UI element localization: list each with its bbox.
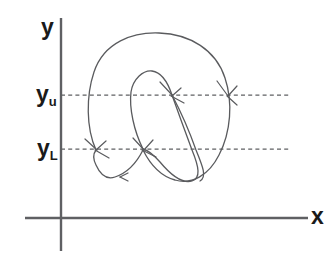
outer-trajectory-loop bbox=[88, 33, 230, 181]
phase-plane-figure: y x yu yL bbox=[0, 0, 335, 265]
x-axis-label-text: x bbox=[311, 203, 324, 229]
lower-threshold-label-main: y bbox=[37, 135, 50, 161]
trajectory-curves-group bbox=[88, 33, 230, 182]
upper-threshold-label-sub: u bbox=[49, 94, 57, 109]
lower-threshold-label: yL bbox=[37, 137, 58, 160]
upper-threshold-label-main: y bbox=[36, 81, 49, 107]
upper-threshold-label: yu bbox=[36, 83, 57, 106]
y-axis-label: y bbox=[41, 16, 54, 39]
axes-group bbox=[25, 18, 308, 251]
lower-threshold-label-sub: L bbox=[50, 148, 58, 163]
x-axis-label: x bbox=[311, 205, 324, 228]
direction-arrows-group bbox=[85, 81, 237, 181]
inner-trajectory-loop bbox=[131, 71, 198, 182]
y-axis-label-text: y bbox=[41, 14, 54, 40]
arrow-upper-inner-crossing bbox=[160, 82, 184, 103]
